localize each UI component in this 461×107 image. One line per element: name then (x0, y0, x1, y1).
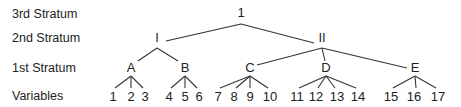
node-D: D (321, 60, 330, 75)
variable-6: 6 (195, 89, 202, 104)
tree-edges (115, 24, 436, 88)
variable-4: 4 (165, 89, 172, 104)
label-2nd-stratum: 2nd Stratum (12, 31, 80, 45)
variable-10: 10 (263, 89, 277, 104)
variable-1: 1 (109, 89, 116, 104)
tree-nodes: 1IIIA123B456C78910D11121314E151617 (109, 5, 445, 104)
node-A: A (127, 60, 136, 75)
edge-root-I (166, 24, 241, 41)
edge-I-A (138, 48, 157, 61)
variable-13: 13 (330, 89, 344, 104)
edge-C-var-7 (220, 76, 250, 88)
variable-5: 5 (181, 89, 188, 104)
variable-9: 9 (246, 89, 253, 104)
edge-root-II (241, 24, 314, 43)
node-E: E (411, 60, 420, 75)
edge-E-var-16 (415, 76, 416, 88)
edge-A-var-3 (131, 76, 143, 88)
edge-C-var-10 (250, 76, 268, 88)
edge-I-B (157, 48, 178, 61)
node-B: B (181, 60, 190, 75)
edge-A-var-1 (115, 76, 131, 88)
edge-E-var-17 (415, 76, 436, 88)
label-1st-stratum: 1st Stratum (12, 61, 76, 75)
node-C: C (245, 60, 254, 75)
edge-II-C (257, 48, 322, 65)
label-variables: Variables (12, 89, 63, 103)
variable-7: 7 (214, 89, 221, 104)
variable-2: 2 (127, 89, 134, 104)
variable-16: 16 (407, 89, 421, 104)
edge-E-var-15 (393, 76, 415, 88)
variable-15: 15 (384, 89, 398, 104)
variable-17: 17 (431, 89, 445, 104)
variable-8: 8 (230, 89, 237, 104)
edge-B-var-4 (171, 76, 185, 88)
variable-12: 12 (309, 89, 323, 104)
label-3rd-stratum: 3rd Stratum (12, 7, 77, 21)
node-root: 1 (237, 5, 244, 20)
variable-14: 14 (351, 89, 365, 104)
variable-11: 11 (290, 89, 304, 104)
edge-C-var-8 (236, 76, 250, 88)
node-I: I (155, 30, 159, 45)
node-II: II (318, 30, 325, 45)
edge-II-E (322, 48, 407, 68)
edge-B-var-6 (185, 76, 197, 88)
hierarchy-diagram: 3rd Stratum 2nd Stratum 1st Stratum Vari… (0, 0, 461, 107)
variable-3: 3 (141, 89, 148, 104)
